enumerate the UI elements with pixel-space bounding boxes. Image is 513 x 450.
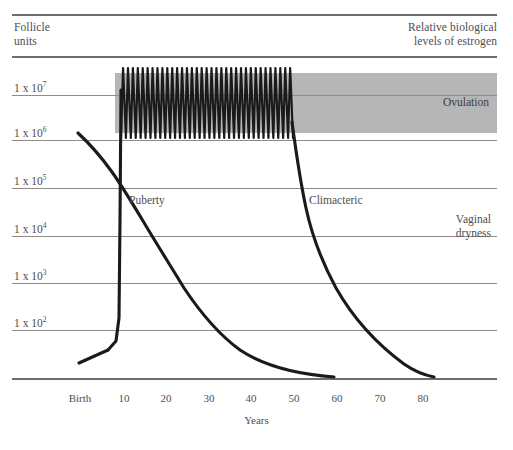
figure-container: Follicle units Relative biological level… xyxy=(0,0,513,450)
x-tick-70: 70 xyxy=(375,392,386,404)
annotation-vaginal-dryness-line2: dryness xyxy=(456,226,491,240)
x-tick-50: 50 xyxy=(289,392,300,404)
annotation-ovulation: Ovulation xyxy=(443,96,489,108)
estrogen-climacteric-fall xyxy=(292,122,434,377)
y-axis-title-right: Relative biological levels of estrogen xyxy=(408,20,497,48)
y-axis-title-right-line2: levels of estrogen xyxy=(408,34,497,48)
annotation-puberty: Puberty xyxy=(129,193,165,207)
estrogen-puberty-rise xyxy=(108,90,121,350)
y-axis-title-left-line1: Follicle xyxy=(14,20,50,34)
y-axis-title-left: Follicle units xyxy=(14,20,50,48)
header-rule-top xyxy=(12,14,497,16)
header-rule-bottom xyxy=(12,56,497,58)
x-tick-80: 80 xyxy=(418,392,429,404)
curves-svg xyxy=(12,60,497,380)
x-tick-40: 40 xyxy=(246,392,257,404)
x-tick-20: 20 xyxy=(161,392,172,404)
plot-area: 1 x 107 1 x 106 1 x 105 1 x 104 1 x 103 … xyxy=(12,60,497,380)
x-tick-10: 10 xyxy=(119,392,130,404)
x-axis-title: Years xyxy=(0,414,513,426)
x-tick-birth: Birth xyxy=(69,392,92,404)
y-axis-title-right-line1: Relative biological xyxy=(408,20,497,34)
x-tick-60: 60 xyxy=(332,392,343,404)
estrogen-prepubertal-segment xyxy=(79,350,108,363)
estrogen-cyclic-oscillations xyxy=(121,68,293,138)
x-tick-30: 30 xyxy=(204,392,215,404)
y-axis-title-left-line2: units xyxy=(14,34,50,48)
annotation-vaginal-dryness-line1: Vaginal xyxy=(456,212,491,226)
annotation-climacteric: Climacteric xyxy=(309,193,363,207)
annotation-vaginal-dryness: Vaginal dryness xyxy=(456,212,491,240)
